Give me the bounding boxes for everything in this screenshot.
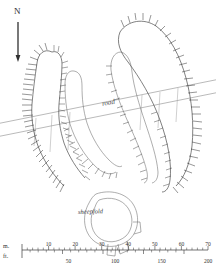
east-bank-outer [118,13,202,193]
plan-canvas: .bank{fill:none;stroke:#4a4a4a;stroke-wi… [0,0,216,274]
scale-tick-label: 150 [157,258,165,264]
scale-tick-label: 30 [99,241,105,247]
scale-tick-label: 200 [204,258,212,264]
north-arrow-icon [16,22,21,62]
earthwork-plan-figure: .bank{fill:none;stroke:#4a4a4a;stroke-wi… [0,0,216,274]
west-bank-inner [64,71,122,179]
east-bank-inner [106,52,158,183]
scale-tick-label: 50 [152,241,158,247]
scale-tick-label: 50 [66,258,72,264]
scale-tick-label: 60 [179,241,185,247]
scale-tick-label: 70 [205,241,211,247]
scale-tick-label: 10 [46,241,52,247]
scale-unit-feet: ft. [3,253,8,259]
sheepfold-label: sheepfold [78,207,103,215]
scale-tick-label: 20 [72,241,78,247]
scale-unit-meters: m. [3,243,9,249]
west-bank-outer [22,43,90,192]
sheepfold-enclosure [85,192,141,256]
north-arrow-label: N [14,6,21,16]
scale-tick-label: 40 [126,241,132,247]
scale-tick-label: 100 [111,258,119,264]
